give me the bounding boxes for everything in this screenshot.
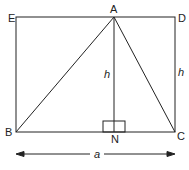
label-side-h: h (178, 66, 184, 78)
rectangle-ebcd (16, 17, 175, 132)
label-c: C (177, 130, 185, 142)
label-base-a: a (94, 148, 100, 160)
label-n: N (111, 133, 119, 145)
arrowhead-right-icon (167, 152, 175, 157)
label-d: D (178, 12, 186, 24)
label-e: E (8, 12, 15, 24)
label-a: A (110, 3, 118, 15)
label-altitude-h: h (104, 68, 110, 80)
geometry-diagram: E A D B C N h h a (0, 0, 189, 170)
arrowhead-left-icon (16, 152, 24, 157)
side-ab (16, 17, 114, 132)
label-b: B (5, 126, 12, 138)
side-ac (114, 17, 175, 132)
